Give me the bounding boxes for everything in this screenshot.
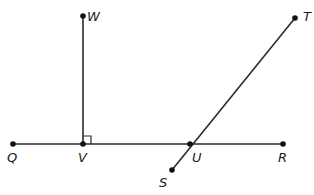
point-S <box>169 167 175 173</box>
label-R: R <box>278 151 287 164</box>
point-V <box>80 141 86 147</box>
label-V: V <box>78 151 87 164</box>
label-Q: Q <box>7 151 17 164</box>
segment-ST <box>172 18 295 170</box>
point-T <box>292 15 298 21</box>
point-U <box>187 141 193 147</box>
point-W <box>80 13 86 19</box>
label-U: U <box>192 151 202 164</box>
label-T: T <box>303 10 311 23</box>
geometry-diagram <box>0 0 314 195</box>
label-W: W <box>87 10 100 23</box>
point-Q <box>10 141 16 147</box>
point-R <box>280 141 286 147</box>
label-S: S <box>159 176 167 189</box>
